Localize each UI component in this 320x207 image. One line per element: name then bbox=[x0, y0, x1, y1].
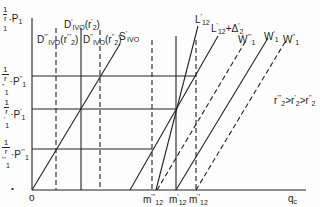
label-w1-single: W'1 bbox=[264, 30, 279, 43]
label-d-single: D'IVO(r'2) bbox=[64, 18, 100, 31]
curve-l12-delta bbox=[130, 36, 218, 190]
label-m12-double: m''12 bbox=[189, 193, 208, 206]
label-d-double: D''IVO(r''2) bbox=[83, 33, 122, 46]
supply-s-ivo bbox=[32, 44, 120, 190]
label-m12-single: m'12 bbox=[169, 193, 186, 206]
label-w1-triple: W'''1 bbox=[238, 33, 255, 46]
curve-w1-single bbox=[176, 38, 268, 190]
label-l12: L'12 bbox=[195, 13, 210, 26]
label-w1-double: W''1 bbox=[283, 33, 299, 46]
label-s-ivo: S'IVO bbox=[119, 30, 139, 43]
curve-w1-triple bbox=[157, 42, 245, 190]
curve-w1-double bbox=[196, 42, 285, 190]
y-label-p1-single: 1r'1 · P'1 bbox=[4, 99, 26, 129]
economics-diagram: 1r1 · P1 1r''1 · P''1 1r'1 · P'1 1r'''1 … bbox=[0, 0, 320, 207]
y-label-top-p: P1 bbox=[12, 13, 23, 25]
x-axis-label: qc bbox=[288, 194, 297, 205]
label-d-triple: D'''IVO(r'''2) bbox=[37, 33, 78, 46]
y-label-top: 1r1 · P1 bbox=[3, 6, 22, 32]
y-label-p1-triple: 1r'''1 · P'''1 bbox=[2, 139, 29, 169]
bullet-mark: • bbox=[11, 185, 14, 193]
inequality-note: r'''2>r'2>r''2 bbox=[274, 94, 315, 107]
fraction-denominator: r1 bbox=[3, 15, 7, 32]
origin-label: o bbox=[29, 193, 35, 203]
label-m12-triple: m'''12 bbox=[143, 193, 163, 206]
y-label-p1-double: 1r''1 · P''1 bbox=[2, 66, 26, 96]
